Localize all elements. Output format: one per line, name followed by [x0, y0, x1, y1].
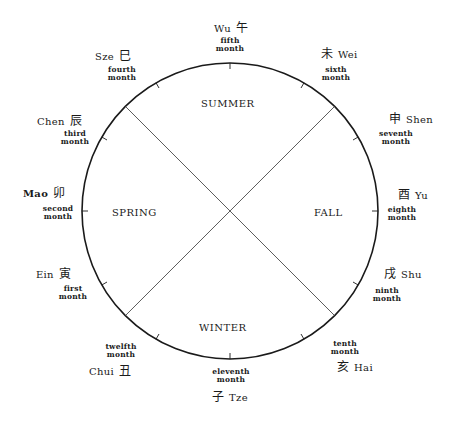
- chinese-character-icon: 辰: [70, 114, 82, 128]
- month-name: Yu: [415, 190, 428, 201]
- month-ordinal-seventh: seventhmonth: [374, 130, 418, 146]
- season-label-fall: Fall: [314, 207, 343, 218]
- chinese-character-icon: 戌: [384, 267, 396, 281]
- month-label-tze: 子 Tze: [212, 388, 248, 404]
- month-ordinal-eleventh: eleventhmonth: [208, 368, 254, 384]
- month-label-shen: 申 Shen: [389, 110, 433, 126]
- month-name: Ein: [36, 269, 54, 280]
- chinese-character-icon: 亥: [337, 360, 349, 374]
- month-name: Wei: [338, 49, 357, 60]
- chinese-character-icon: 寅: [59, 267, 71, 281]
- month-name: Wu: [214, 23, 231, 34]
- chinese-character-icon: 巳: [119, 49, 131, 63]
- season-label-winter: Winter: [199, 322, 246, 333]
- month-ordinal-second: secondmonth: [38, 205, 78, 221]
- month-label-sze: Sze 巳: [95, 47, 131, 63]
- chinese-character-icon: 卯: [53, 186, 65, 200]
- season-label-summer: Summer: [201, 98, 255, 109]
- month-label-chen: Chen 辰: [37, 112, 82, 128]
- month-name: Mao: [23, 188, 48, 199]
- month-name: Chui: [89, 366, 114, 377]
- month-name: Shen: [406, 114, 433, 125]
- chinese-character-icon: 申: [389, 112, 401, 126]
- month-ordinal-fourth: fourthmonth: [104, 66, 140, 82]
- month-label-wei: 未 Wei: [321, 45, 358, 61]
- season-label-spring: Spring: [112, 207, 157, 218]
- month-name: Hai: [354, 362, 373, 373]
- chinese-character-icon: 子: [212, 390, 224, 404]
- month-label-yu: 酉 Yu: [398, 186, 428, 202]
- month-label-ein: Ein 寅: [36, 265, 71, 281]
- month-ordinal-fifth: fifthmonth: [214, 37, 246, 53]
- month-name: Sze: [95, 51, 114, 62]
- chinese-character-icon: 未: [321, 47, 333, 61]
- chinese-character-icon: 酉: [398, 188, 410, 202]
- month-ordinal-tenth: tenthmonth: [328, 340, 362, 356]
- month-name: Shu: [401, 269, 422, 280]
- month-name: Chen: [37, 116, 65, 127]
- month-ordinal-third: thirdmonth: [58, 130, 92, 146]
- chinese-character-icon: 午: [236, 21, 248, 35]
- month-ordinal-sixth: sixthmonth: [320, 66, 352, 82]
- month-label-chui: Chui 丑: [89, 362, 131, 378]
- month-label-mao: Mao 卯: [23, 184, 65, 200]
- month-ordinal-first: firstmonth: [56, 285, 90, 301]
- month-label-hai: 亥 Hai: [337, 358, 373, 374]
- month-ordinal-ninth: ninthmonth: [370, 287, 404, 303]
- month-name: Tze: [229, 392, 248, 403]
- month-ordinal-eighth: eighthmonth: [384, 206, 420, 222]
- month-label-shu: 戌 Shu: [384, 265, 422, 281]
- chinese-character-icon: 丑: [119, 364, 131, 378]
- month-label-wu: Wu 午: [214, 19, 248, 35]
- month-ordinal-twelfth: twelfthmonth: [101, 343, 141, 359]
